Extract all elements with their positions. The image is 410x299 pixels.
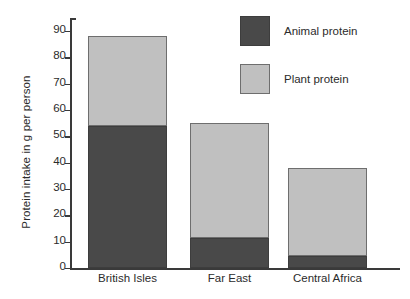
- y-tick-label: 50: [53, 128, 66, 140]
- bar-segment-animal[interactable]: [88, 126, 167, 268]
- bar-segment-animal[interactable]: [190, 238, 269, 268]
- bar-segment-animal[interactable]: [288, 256, 367, 268]
- protein-intake-stacked-bar-chart: Protein intake in g per person 010203040…: [0, 0, 410, 299]
- legend-label-animal-protein: Animal protein: [284, 25, 358, 37]
- category-label-central-africa: Central Africa: [253, 272, 403, 284]
- y-tick-label: 10: [53, 234, 66, 246]
- y-tick-label: 0: [60, 260, 66, 272]
- y-tick-label: 20: [53, 207, 66, 219]
- x-axis-baseline: [70, 268, 400, 270]
- legend-swatch-animal-protein: [240, 16, 270, 46]
- y-tick-label: 40: [53, 155, 66, 167]
- y-axis-line: [70, 18, 72, 268]
- legend-swatch-plant-protein: [240, 64, 270, 94]
- y-tick-label: 90: [53, 23, 66, 35]
- legend-item-plant-protein[interactable]: Plant protein: [240, 64, 349, 94]
- plot-area: 0102030405060708090 British IslesFar Eas…: [70, 18, 400, 268]
- y-axis-title: Protein intake in g per person: [20, 42, 32, 262]
- bar-group[interactable]: [288, 18, 367, 268]
- y-tick-label: 30: [53, 181, 66, 193]
- bar-group[interactable]: [190, 18, 269, 268]
- y-axis-top-cap: [70, 18, 76, 20]
- legend-item-animal-protein[interactable]: Animal protein: [240, 16, 358, 46]
- bar-segment-plant[interactable]: [288, 168, 367, 256]
- y-tick-label: 60: [53, 102, 66, 114]
- bar-segment-plant[interactable]: [190, 123, 269, 237]
- bar-group[interactable]: [88, 18, 167, 268]
- y-tick-label: 80: [53, 49, 66, 61]
- y-tick-label: 70: [53, 76, 66, 88]
- bar-segment-plant[interactable]: [88, 36, 167, 125]
- legend-label-plant-protein: Plant protein: [284, 73, 349, 85]
